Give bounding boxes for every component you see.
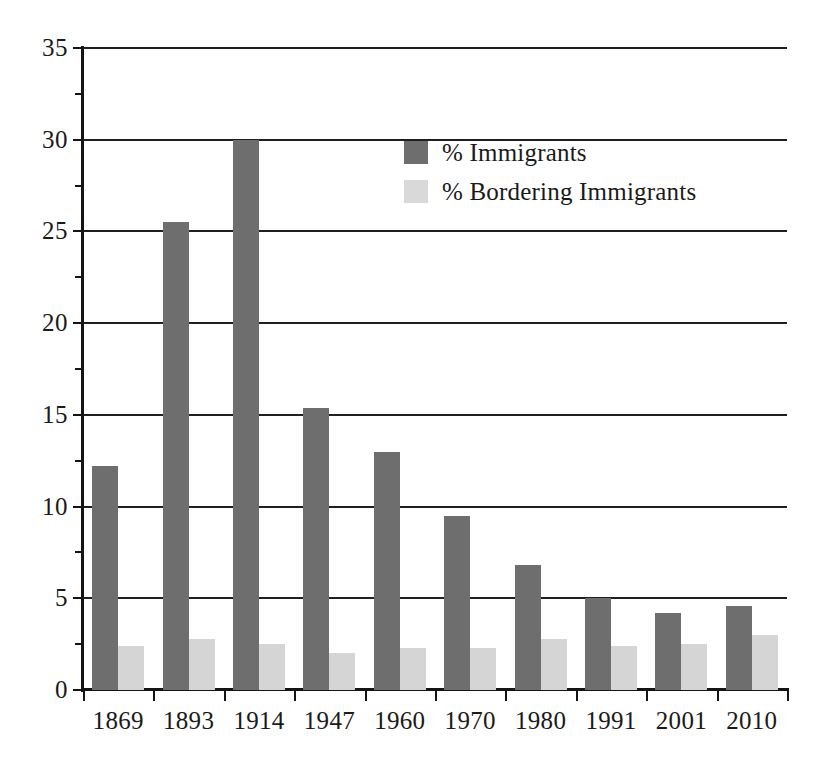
x-tick-label-1970: 1970 [435,707,505,735]
y-tick-20 [73,322,82,324]
bar-1960-bordering-immigrants [400,648,426,690]
y-tick-10 [73,506,82,508]
gridline-25 [83,230,787,232]
x-tick-1970 [505,690,507,701]
bar-1893-immigrants [163,222,189,690]
bar-1980-immigrants [515,565,541,690]
x-tick-1980 [576,690,578,701]
bar-1947-bordering-immigrants [329,653,355,690]
legend-label-immigrants: % Immigrants [442,140,587,165]
y-tick-5 [73,597,82,599]
y-tick-label-15: 15 [26,402,68,427]
x-tick-1960 [435,690,437,701]
x-tick-1914 [294,690,296,701]
y-tick-label-30: 30 [26,127,68,152]
y-tick-15 [73,414,82,416]
x-tick-label-1980: 1980 [505,707,575,735]
y-tick-minor-17.5 [75,368,82,370]
y-tick-label-5: 5 [26,585,68,610]
gridline-15 [83,414,787,416]
y-tick-minor-12.5 [75,460,82,462]
bar-2010-bordering-immigrants [752,635,778,690]
y-tick-label-35: 35 [26,35,68,60]
y-tick-label-0: 0 [26,677,68,702]
x-tick-label-1960: 1960 [365,707,435,735]
bar-1869-bordering-immigrants [118,646,144,690]
x-tick-label-1893: 1893 [153,707,223,735]
y-tick-0 [73,689,82,691]
legend-label-bordering-immigrants: % Bordering Immigrants [442,179,696,204]
x-tick-1893 [224,690,226,701]
y-tick-label-10: 10 [26,494,68,519]
bar-1960-immigrants [374,452,400,690]
y-axis-labels: 05101520253035 [0,0,68,771]
x-tick-label-2001: 2001 [646,707,716,735]
y-tick-35 [73,47,82,49]
y-tick-minor-32.5 [75,93,82,95]
x-tick-1991 [646,690,648,701]
x-tick-2010 [787,690,789,701]
x-tick-label-2010: 2010 [717,707,787,735]
x-tick-label-1869: 1869 [83,707,153,735]
legend-item-bordering-immigrants: % Bordering Immigrants [404,179,696,204]
y-tick-label-20: 20 [26,310,68,335]
gridline-10 [83,506,787,508]
bar-chart: 05101520253035 1869189319141947196019701… [0,0,832,771]
x-tick-2001 [717,690,719,701]
bar-1991-immigrants [585,598,611,690]
y-tick-30 [73,139,82,141]
bar-2001-bordering-immigrants [681,644,707,690]
bar-1980-bordering-immigrants [541,639,567,690]
legend-swatch-icon-immigrants [404,141,428,164]
y-tick-minor-22.5 [75,276,82,278]
bar-1991-bordering-immigrants [611,646,637,690]
y-tick-25 [73,230,82,232]
bar-2010-immigrants [726,606,752,690]
bar-1914-immigrants [233,140,259,690]
x-tick-label-1914: 1914 [224,707,294,735]
x-tick-label-1991: 1991 [576,707,646,735]
legend-item-immigrants: % Immigrants [404,140,696,165]
y-tick-minor-7.5 [75,551,82,553]
x-tick-1869 [153,690,155,701]
bar-1970-immigrants [444,516,470,690]
bar-1947-immigrants [303,408,329,690]
legend-swatch-icon-bordering-immigrants [404,180,428,203]
y-tick-label-25: 25 [26,218,68,243]
bar-1970-bordering-immigrants [470,648,496,690]
x-tick-label-1947: 1947 [294,707,364,735]
y-tick-minor-27.5 [75,185,82,187]
gridline-5 [83,597,787,599]
bar-1914-bordering-immigrants [259,644,285,690]
x-tick-1947 [365,690,367,701]
chart-legend: % Immigrants % Bordering Immigrants [404,140,696,204]
bar-1893-bordering-immigrants [189,639,215,690]
bar-2001-immigrants [655,613,681,690]
x-tick-origin [83,690,85,701]
y-tick-minor-2.5 [75,643,82,645]
gridline-35 [83,47,787,49]
gridline-20 [83,322,787,324]
bar-1869-immigrants [92,466,118,690]
